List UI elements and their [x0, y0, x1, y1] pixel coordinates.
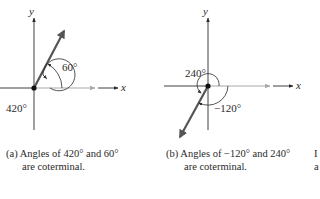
angle-label-neg120: −120°	[214, 102, 241, 114]
origin-dot	[31, 85, 36, 90]
caption-c-partial: I a	[314, 147, 320, 173]
angle-label-420: 420°	[6, 102, 27, 114]
angle-label-240: 240°	[185, 67, 206, 79]
y-axis-label: y	[202, 5, 208, 17]
angle-arc-60	[48, 64, 62, 88]
caption-tag: (a)	[6, 148, 18, 159]
terminal-side	[180, 86, 208, 137]
x-axis-label: x	[295, 79, 301, 91]
origin-dot	[205, 83, 210, 88]
angle-arc-420-arrow	[43, 75, 47, 79]
figure-a: y x 60° 420°	[0, 5, 126, 130]
caption-text-line2: are coterminal.	[6, 160, 146, 173]
x-axis-label: x	[120, 81, 126, 93]
caption-c-line2: a	[314, 160, 320, 173]
figure-b: y x 240° −120°	[164, 5, 301, 137]
y-axis-label: y	[28, 5, 34, 17]
caption-text: Angles of −120° and 240°	[180, 148, 290, 159]
caption-a: (a) Angles of 420° and 60° are cotermina…	[6, 147, 146, 173]
terminal-side	[34, 31, 64, 88]
caption-c-line1: I	[314, 147, 320, 160]
caption-b: (b) Angles of −120° and 240° are cotermi…	[166, 147, 306, 173]
caption-text: Angles of 420° and 60°	[20, 148, 119, 159]
caption-text-line2: are coterminal.	[166, 160, 306, 173]
caption-tag: (b)	[166, 148, 178, 159]
